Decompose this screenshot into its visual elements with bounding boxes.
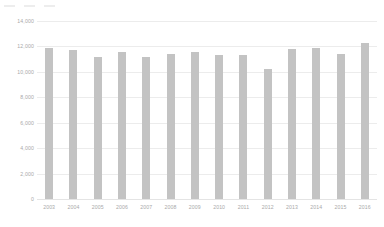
x-tick-label-2006: 2006 [110,203,134,211]
bar-2010[interactable] [215,55,223,199]
bar-2006[interactable] [118,52,126,199]
y-tick-label-14000: 14,000 [0,18,34,24]
bar-2013[interactable] [288,49,296,199]
x-tick-label-2008: 2008 [159,203,183,211]
bar-2012[interactable] [264,69,272,199]
x-tick-label-2003: 2003 [37,203,61,211]
bar-2007[interactable] [142,57,150,199]
x-tick-label-2016: 2016 [353,203,377,211]
bar-2005[interactable] [94,57,102,199]
y-axis: 02,0004,0006,0008,00010,00012,00014,000 [0,21,34,199]
y-tick-label-12000: 12,000 [0,43,34,49]
artifact-mark-3 [44,5,55,7]
x-tick-label-2009: 2009 [183,203,207,211]
bar-2011[interactable] [239,55,247,199]
artifact-mark-1 [4,5,15,7]
y-tick-label-2000: 2,000 [0,171,34,177]
x-axis: 2003200420052006200720082009201020112012… [37,203,377,213]
x-tick-label-2007: 2007 [134,203,158,211]
y-tick-label-8000: 8,000 [0,94,34,100]
y-tick-label-0: 0 [0,196,34,202]
x-tick-label-2012: 2012 [256,203,280,211]
bar-2015[interactable] [337,54,345,199]
y-tick-label-4000: 4,000 [0,145,34,151]
bar-2003[interactable] [45,48,53,199]
x-tick-label-2015: 2015 [329,203,353,211]
bar-2014[interactable] [312,48,320,199]
artifact-mark-2 [24,5,35,7]
bar-2008[interactable] [167,54,175,199]
x-tick-label-2005: 2005 [86,203,110,211]
x-tick-label-2013: 2013 [280,203,304,211]
y-tick-label-6000: 6,000 [0,120,34,126]
bar-2004[interactable] [69,50,77,199]
bars-layer [37,21,377,199]
bar-chart: 02,0004,0006,0008,00010,00012,00014,000 … [0,0,384,227]
gridline-0 [37,199,377,200]
bar-2016[interactable] [361,43,369,199]
x-tick-label-2014: 2014 [304,203,328,211]
x-tick-label-2011: 2011 [231,203,255,211]
y-tick-label-10000: 10,000 [0,69,34,75]
plot-area [37,21,377,199]
x-tick-label-2004: 2004 [61,203,85,211]
bar-2009[interactable] [191,52,199,199]
top-artifact-row [0,0,384,12]
x-tick-label-2010: 2010 [207,203,231,211]
